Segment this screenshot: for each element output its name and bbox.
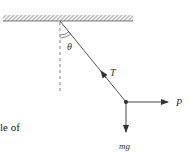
force-p-label: P bbox=[175, 97, 182, 108]
angle-arc bbox=[60, 32, 69, 35]
tension-arrow-icon bbox=[101, 71, 106, 78]
ceiling bbox=[3, 15, 133, 21]
pendulum-diagram: θ T P mg le of bbox=[0, 0, 189, 153]
pendulum-string bbox=[60, 21, 126, 102]
ceiling-hatch bbox=[3, 15, 133, 21]
tension-label: T bbox=[110, 67, 117, 78]
text-fragment: le of bbox=[0, 121, 20, 133]
weight-label: mg bbox=[119, 141, 130, 151]
angle-label: θ bbox=[67, 41, 72, 52]
